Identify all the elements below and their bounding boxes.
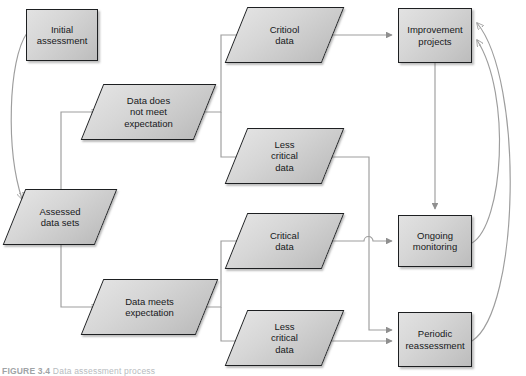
edge-ongoing-to-improvement-feedback [472,40,500,243]
node-data-meets-expectation-label: Data meets expectation [123,296,176,319]
node-less-critical-data-bottom-label: Less critical data [269,321,300,356]
flowchart-canvas: Initial assessment Assessed data sets Da… [0,0,526,376]
node-assessed-data-sets[interactable]: Assessed data sets [14,189,106,245]
edge-periodic-to-improvement-feedback [472,23,510,341]
node-improvement-projects-label: Improvement projects [405,24,464,47]
node-critical-data-bottom[interactable]: Critical data [236,213,333,269]
node-initial-assessment-label: Initial assessment [35,24,90,47]
node-critical-data-bottom-label: Critical data [268,230,301,253]
node-periodic-reassessment-label: Periodic reassessment [403,328,466,351]
edge-initial-assessment-to-assessed-data-sets [11,33,27,199]
node-data-does-not-meet-expectation[interactable]: Data does not meet expectation [92,84,205,140]
node-ongoing-monitoring[interactable]: Ongoing monitoring [398,215,472,267]
node-less-critical-data-bottom[interactable]: Less critical data [236,310,333,366]
node-improvement-projects[interactable]: Improvement projects [398,8,472,63]
node-critical-data-top[interactable]: Critiool data [236,7,333,63]
node-data-meets-expectation[interactable]: Data meets expectation [92,279,207,335]
node-critical-data-top-label: Critiool data [268,24,302,47]
node-periodic-reassessment[interactable]: Periodic reassessment [398,312,472,367]
node-initial-assessment[interactable]: Initial assessment [26,9,98,61]
node-less-critical-data-top-label: Less critical data [269,139,300,174]
figure-caption: FIGURE 3.4 Data assessment process [2,366,155,376]
figure-caption-text: Data assessment process [53,366,155,376]
node-data-does-not-meet-expectation-label: Data does not meet expectation [122,95,175,130]
node-ongoing-monitoring-label: Ongoing monitoring [411,230,459,253]
node-less-critical-data-top[interactable]: Less critical data [236,128,333,184]
figure-caption-label: FIGURE 3.4 [2,366,50,376]
node-assessed-data-sets-label: Assessed data sets [37,206,82,229]
